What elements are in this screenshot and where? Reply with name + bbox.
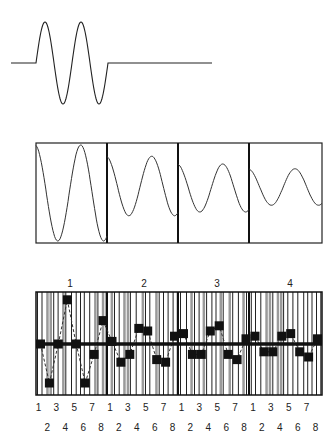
sample-marker	[125, 350, 134, 359]
sample-marker	[242, 334, 251, 343]
even-tick-label: 6	[152, 422, 158, 433]
sample-marker	[81, 379, 90, 388]
odd-tick-label: 1	[36, 402, 42, 413]
sample-marker	[108, 337, 117, 346]
odd-tick-label: 7	[89, 402, 95, 413]
burst-waveform	[11, 22, 212, 104]
sample-marker	[116, 358, 125, 367]
even-tick-label: 2	[188, 422, 194, 433]
sample-marker	[277, 332, 286, 341]
even-tick-label: 4	[63, 422, 69, 433]
group-label: 3	[214, 278, 220, 289]
sample-marker	[259, 347, 268, 356]
sample-marker	[134, 324, 143, 333]
even-tick-label: 8	[241, 422, 247, 433]
odd-tick-label: 3	[125, 402, 131, 413]
sample-marker	[215, 321, 224, 330]
sample-marker	[90, 350, 99, 359]
sample-marker	[304, 353, 313, 362]
group-label: 2	[141, 278, 147, 289]
group-label: 1	[67, 278, 73, 289]
odd-tick-label: 1	[179, 402, 185, 413]
sample-marker	[170, 332, 179, 341]
odd-tick-label: 3	[268, 402, 274, 413]
odd-tick-label: 3	[54, 402, 60, 413]
sample-marker	[206, 327, 215, 336]
even-tick-label: 4	[206, 422, 212, 433]
odd-tick-label: 5	[215, 402, 221, 413]
sample-marker	[99, 316, 108, 325]
even-tick-label: 4	[134, 422, 140, 433]
sample-marker	[152, 355, 161, 364]
odd-tick-label: 7	[161, 402, 167, 413]
tick-labels: 12345678123456781234567812345678	[36, 402, 319, 433]
group-labels: 1234	[67, 278, 293, 289]
sample-marker	[45, 379, 54, 388]
diagram-canvas: 1234 12345678123456781234567812345678	[0, 0, 336, 445]
sample-marker	[295, 347, 304, 356]
even-tick-label: 2	[259, 422, 265, 433]
sample-marker	[54, 340, 63, 349]
even-tick-label: 6	[80, 422, 86, 433]
sample-marker	[233, 355, 242, 364]
odd-tick-label: 7	[232, 402, 238, 413]
sample-marker	[36, 340, 45, 349]
odd-tick-label: 7	[304, 402, 310, 413]
odd-tick-label: 5	[143, 402, 149, 413]
odd-tick-label: 5	[72, 402, 78, 413]
even-tick-label: 8	[98, 422, 104, 433]
even-tick-label: 6	[295, 422, 301, 433]
sampled-signal-panel: 1234 12345678123456781234567812345678	[36, 278, 322, 433]
even-tick-label: 6	[223, 422, 229, 433]
damped-wave-panel	[36, 143, 322, 243]
odd-tick-label: 3	[197, 402, 203, 413]
sample-marker	[188, 350, 197, 359]
odd-tick-label: 1	[107, 402, 113, 413]
odd-tick-label: 1	[250, 402, 256, 413]
even-tick-label: 2	[116, 422, 122, 433]
sample-marker	[268, 347, 277, 356]
sample-marker	[251, 332, 260, 341]
sample-marker	[72, 340, 81, 349]
even-tick-label: 4	[277, 422, 283, 433]
sample-marker	[197, 350, 206, 359]
sample-marker	[63, 295, 72, 304]
sample-marker	[143, 327, 152, 336]
even-tick-label: 2	[45, 422, 51, 433]
even-tick-label: 8	[170, 422, 176, 433]
even-tick-label: 8	[313, 422, 319, 433]
sample-marker	[161, 358, 170, 367]
odd-tick-label: 5	[286, 402, 292, 413]
sample-marker	[313, 334, 322, 343]
sample-marker	[286, 329, 295, 338]
sample-marker	[179, 329, 188, 338]
sample-marker	[224, 350, 233, 359]
group-label: 4	[287, 278, 293, 289]
